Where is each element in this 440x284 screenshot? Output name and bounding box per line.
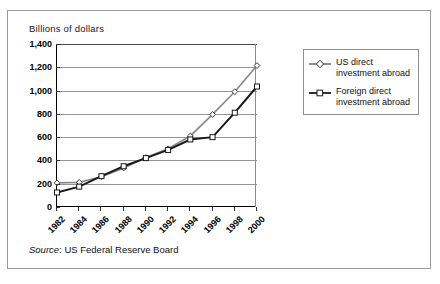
source-label: Source bbox=[29, 244, 59, 255]
x-axis-tick-mark bbox=[234, 207, 235, 211]
y-axis-title: Billions of dollars bbox=[29, 23, 104, 34]
y-axis-tick-label: 1,000 bbox=[29, 86, 52, 96]
y-axis-tick-mark bbox=[56, 184, 60, 185]
source-note: Source: US Federal Reserve Board bbox=[29, 244, 178, 255]
x-axis-tick-mark bbox=[256, 207, 257, 211]
chart-figure: Billions of dollars 02004006008001,0001,… bbox=[7, 10, 431, 269]
legend-label-us-direct: US direct investment abroad bbox=[336, 57, 410, 78]
y-axis-tick-mark bbox=[56, 207, 60, 208]
x-axis-tick-mark bbox=[189, 207, 190, 211]
legend-item-foreign-direct: Foreign direct investment abroad bbox=[309, 86, 412, 107]
chart-series-layer bbox=[57, 44, 257, 207]
source-value: US Federal Reserve Board bbox=[64, 244, 178, 255]
x-axis-tick-label: 1988 bbox=[105, 214, 133, 242]
y-axis-tick-mark bbox=[56, 137, 60, 138]
legend-item-us-direct: US direct investment abroad bbox=[309, 57, 412, 78]
source-separator: : bbox=[59, 244, 62, 255]
legend-label-line2: investment abroad bbox=[336, 97, 410, 108]
square-marker-icon bbox=[309, 87, 331, 99]
x-axis-tick-mark bbox=[78, 207, 79, 211]
series-data-point bbox=[255, 84, 260, 89]
x-axis-tick-mark bbox=[100, 207, 101, 211]
y-axis-tick-mark bbox=[56, 67, 60, 68]
series-data-point bbox=[99, 174, 104, 179]
x-axis-tick-mark bbox=[123, 207, 124, 211]
x-axis-tick-label: 1994 bbox=[172, 214, 200, 242]
y-axis-tick-label: 400 bbox=[37, 155, 52, 165]
legend-label-line1: Foreign direct bbox=[336, 86, 410, 97]
series-data-point bbox=[232, 110, 237, 115]
y-axis-tick-label: 200 bbox=[37, 179, 52, 189]
x-axis-tick-label: 1986 bbox=[83, 214, 111, 242]
series-data-point bbox=[188, 137, 193, 142]
series-data-point bbox=[121, 164, 126, 169]
series-line bbox=[57, 66, 257, 183]
y-axis-tick-mark bbox=[56, 91, 60, 92]
series-data-point bbox=[143, 156, 148, 161]
plot-area bbox=[56, 44, 256, 207]
diamond-marker-icon bbox=[309, 58, 331, 70]
y-axis-tick-label: 600 bbox=[37, 132, 52, 142]
y-axis-tick-label: 1,400 bbox=[29, 39, 52, 49]
series-line bbox=[57, 86, 257, 192]
series-data-point bbox=[55, 190, 60, 195]
y-axis-tick-mark bbox=[56, 114, 60, 115]
legend-label-foreign-direct: Foreign direct investment abroad bbox=[336, 86, 410, 107]
series-data-point bbox=[166, 147, 171, 152]
x-axis-tick-mark bbox=[212, 207, 213, 211]
legend-label-line1: US direct bbox=[336, 57, 410, 68]
y-axis-tick-mark bbox=[56, 44, 60, 45]
x-axis-tick-mark bbox=[145, 207, 146, 211]
x-axis-tick-label: 1996 bbox=[194, 214, 222, 242]
x-axis-tick-mark bbox=[167, 207, 168, 211]
y-axis-tick-labels: 02004006008001,0001,2001,400 bbox=[18, 44, 52, 207]
legend-label-line2: investment abroad bbox=[336, 68, 410, 79]
y-axis-tick-label: 800 bbox=[37, 109, 52, 119]
chart-legend: US direct investment abroad Foreign dire… bbox=[303, 49, 419, 115]
y-axis-tick-mark bbox=[56, 160, 60, 161]
y-axis-tick-label: 1,200 bbox=[29, 62, 52, 72]
series-data-point bbox=[210, 135, 215, 140]
y-axis-tick-label: 0 bbox=[47, 202, 52, 212]
series-data-point bbox=[77, 184, 82, 189]
